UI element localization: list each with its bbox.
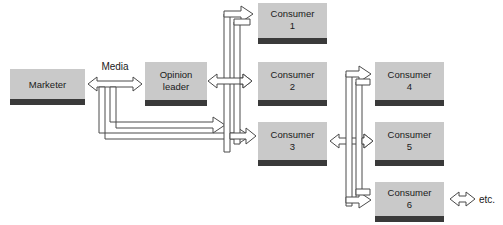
node-consumer-6[interactable]: Consumer 6: [375, 182, 444, 222]
node-opinion-leader[interactable]: Opinion leader: [145, 62, 207, 106]
edge-consumer-6-etc: [450, 192, 475, 206]
node-label-consumer-6-line2: 6: [407, 199, 412, 210]
diagram-canvas: Marketer Opinion leader Consumer 1 Consu…: [0, 0, 503, 225]
node-label-consumer-3-line1: Consumer: [271, 129, 315, 140]
media-label: Media: [101, 61, 129, 72]
etc-label: etc.: [479, 194, 495, 205]
multistep-flow-diagram: Marketer Opinion leader Consumer 1 Consu…: [0, 0, 503, 225]
node-label-consumer-6-line1: Consumer: [388, 187, 432, 198]
node-label-consumer-4-line2: 4: [407, 81, 412, 92]
edge-opinion-leader-consumer-2: [240, 74, 252, 88]
node-consumer-4[interactable]: Consumer 4: [375, 62, 444, 106]
node-consumer-3[interactable]: Consumer 3: [258, 122, 327, 166]
node-label-consumer-4-line1: Consumer: [388, 69, 432, 80]
node-label-consumer-1-line1: Consumer: [271, 8, 315, 19]
node-consumer-1[interactable]: Consumer 1: [258, 3, 327, 44]
node-label-consumer-3-line2: 3: [290, 141, 295, 152]
node-label-consumer-2-line1: Consumer: [271, 69, 315, 80]
node-consumer-5[interactable]: Consumer 5: [375, 122, 444, 166]
node-label-opinion-leader-line2: leader: [163, 81, 189, 92]
edge-consumer-3-consumer-4-b: [356, 79, 370, 85]
node-label-consumer-1-line2: 1: [290, 20, 295, 31]
node-label-marketer: Marketer: [29, 79, 66, 90]
edge-opinion-leader-consumer-1-b: [234, 19, 250, 25]
node-marketer[interactable]: Marketer: [10, 69, 85, 105]
node-label-consumer-2-line2: 2: [290, 81, 295, 92]
node-label-consumer-5-line1: Consumer: [388, 129, 432, 140]
node-label-consumer-5-line2: 5: [407, 141, 412, 152]
node-consumer-2[interactable]: Consumer 2: [258, 62, 327, 106]
edge-consumer-3-consumer-6-b: [356, 189, 370, 195]
edge-consumer-3-consumer-5: [362, 134, 373, 148]
node-label-opinion-leader-line1: Opinion: [160, 69, 193, 80]
